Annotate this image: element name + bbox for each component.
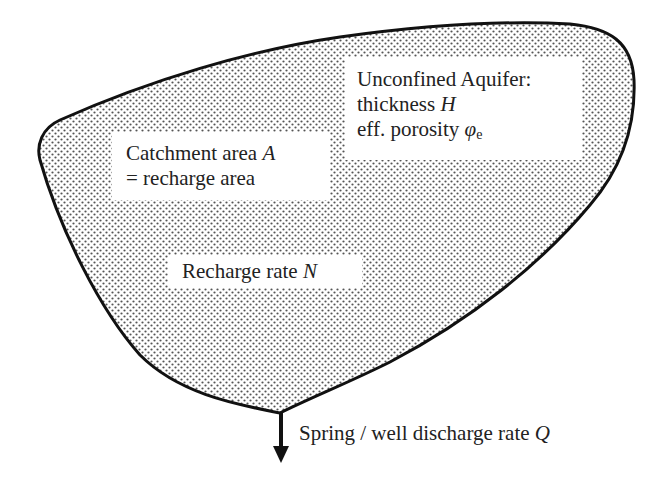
catchment-area: Catchment area A: [126, 141, 275, 166]
porosity-symbol: φ: [465, 117, 477, 141]
discharge-label: Spring / well discharge rate Q: [299, 421, 550, 446]
catchment-label-box: Catchment area A = recharge area: [112, 132, 330, 200]
aquifer-thickness: thickness H: [357, 92, 531, 117]
thickness-symbol: H: [440, 92, 455, 116]
thickness-text: thickness: [357, 92, 440, 116]
catchment-text: Catchment area: [126, 141, 262, 165]
catchment-symbol: A: [262, 141, 275, 165]
recharge-text: Recharge rate: [182, 259, 303, 283]
aquifer-label-box: Unconfined Aquifer: thickness H eff. por…: [345, 57, 582, 160]
discharge-text: Spring / well discharge rate: [299, 421, 535, 445]
discharge-symbol: Q: [535, 421, 550, 445]
porosity-text: eff. porosity: [357, 117, 465, 141]
aquifer-porosity: eff. porosity φe: [357, 117, 531, 147]
porosity-subscript: e: [476, 127, 482, 142]
discharge-arrow-icon: [273, 413, 289, 463]
aquifer-title: Unconfined Aquifer:: [357, 67, 531, 92]
recharge-label-box: Recharge rate N: [168, 255, 362, 288]
recharge-area: = recharge area: [126, 166, 275, 191]
recharge-symbol: N: [303, 259, 317, 283]
